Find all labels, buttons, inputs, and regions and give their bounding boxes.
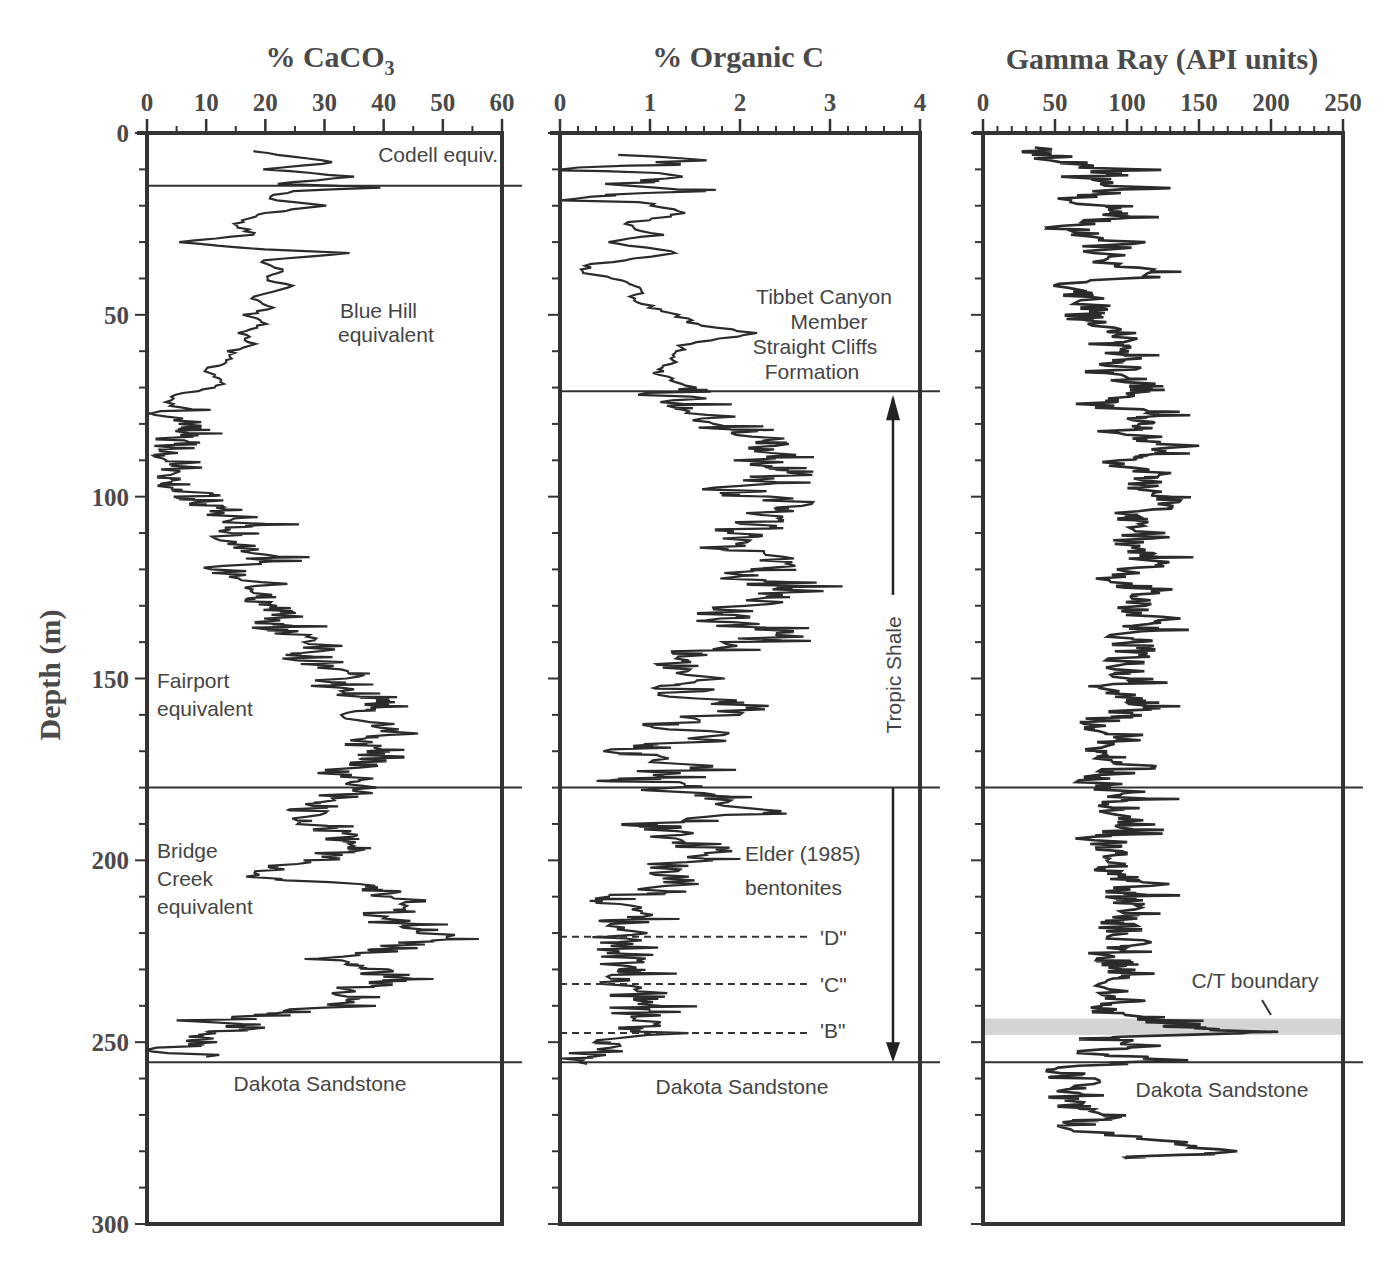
x-tick-label: 0 <box>141 89 154 116</box>
x-tick-label: 100 <box>1108 89 1146 116</box>
x-tick-label: 1 <box>644 89 657 116</box>
depth-tick-label: 200 <box>92 847 130 874</box>
label-bridge-creek-2: Creek <box>157 867 214 890</box>
x-tick-label: 150 <box>1180 89 1218 116</box>
label-tibbet-canyon: Tibbet Canyon <box>756 285 892 308</box>
depth-tick-label: 100 <box>92 484 130 511</box>
label-bentonites: bentonites <box>745 876 842 899</box>
depth-tick-label: 150 <box>92 666 130 693</box>
tropic-shale-arrow: Tropic Shale <box>882 395 905 1062</box>
x-tick-label: 0 <box>977 89 990 116</box>
x-tick-label: 4 <box>914 89 927 116</box>
label-fairport: Fairport <box>157 669 230 692</box>
label-formation: Formation <box>765 360 860 383</box>
depth-tick-label: 0 <box>117 120 130 147</box>
x-tick-label: 200 <box>1252 89 1290 116</box>
caco3-curve <box>147 151 479 1056</box>
x-tick-label: 2 <box>734 89 747 116</box>
label-codell: Codell equiv. <box>378 143 498 166</box>
label-straight-cliffs: Straight Cliffs <box>753 335 878 358</box>
orgc-title: % Organic C <box>652 40 824 73</box>
label-bridge-creek-3: equivalent <box>157 895 253 918</box>
caco3-x-axis: 0102030405060 <box>137 89 515 133</box>
ct-boundary-leader <box>1262 1000 1271 1015</box>
gamma-title: Gamma Ray (API units) <box>1006 42 1319 76</box>
panels: 0102030405060050100150200250300012340501… <box>92 89 1364 1238</box>
caco3-depth-ticks: 050100150200250300 <box>92 120 148 1238</box>
label-dakota-caco3: Dakota Sandstone <box>234 1072 407 1095</box>
x-tick-label: 20 <box>253 89 278 116</box>
label-blue-hill-2: equivalent <box>338 323 434 346</box>
label-bentonite-b: 'B" <box>820 1019 845 1042</box>
x-tick-label: 50 <box>430 89 455 116</box>
x-tick-label: 10 <box>194 89 219 116</box>
label-bentonite-d: 'D" <box>820 926 847 949</box>
x-tick-label: 60 <box>490 89 515 116</box>
label-elder: Elder (1985) <box>745 842 861 865</box>
label-blue-hill: Blue Hill <box>340 299 417 322</box>
label-bentonite-c: 'C" <box>820 973 847 996</box>
gamma-x-axis: 050100150200250 <box>973 89 1362 133</box>
label-fairport-2: equivalent <box>157 697 253 720</box>
label-bridge-creek: Bridge <box>157 839 218 862</box>
gamma-panel: 050100150200250 <box>971 89 1363 1224</box>
caco3-panel: 0102030405060050100150200250300 <box>92 89 523 1238</box>
label-ct-boundary: C/T boundary <box>1192 969 1319 992</box>
caco3-title: % CaCO3 <box>265 40 394 79</box>
x-tick-label: 250 <box>1324 89 1362 116</box>
x-tick-label: 50 <box>1043 89 1068 116</box>
x-tick-label: 3 <box>824 89 837 116</box>
label-dakota-gamma: Dakota Sandstone <box>1136 1078 1309 1101</box>
x-tick-label: 30 <box>312 89 337 116</box>
figure: % CaCO3 % Organic C Gamma Ray (API units… <box>0 0 1399 1274</box>
label-dakota-orgc: Dakota Sandstone <box>656 1075 829 1098</box>
x-tick-label: 0 <box>554 89 567 116</box>
label-tropic-shale: Tropic Shale <box>882 616 905 733</box>
depth-axis-label: Depth (m) <box>33 610 67 741</box>
gamma-curve <box>1023 148 1278 1159</box>
depth-tick-label: 250 <box>92 1029 130 1056</box>
depth-tick-label: 300 <box>92 1211 130 1238</box>
label-member: Member <box>790 310 867 333</box>
x-tick-label: 40 <box>371 89 396 116</box>
depth-tick-label: 50 <box>104 302 129 329</box>
orgc-x-axis: 01234 <box>550 89 927 133</box>
